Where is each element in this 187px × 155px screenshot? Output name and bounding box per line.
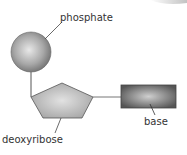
phosphate-label: phosphate (60, 12, 113, 23)
nucleotide-diagram: phosphate deoxyribose base (0, 0, 187, 155)
deoxyribose-pentagon (31, 83, 93, 118)
corner-decoration (150, 0, 187, 4)
base-rectangle (121, 85, 176, 108)
phosphate-circle (11, 32, 51, 72)
deoxyribose-label: deoxyribose (2, 134, 63, 145)
base-label: base (144, 116, 168, 127)
phosphate-leader-line (45, 22, 62, 39)
deoxyribose-leader-line (55, 118, 61, 133)
